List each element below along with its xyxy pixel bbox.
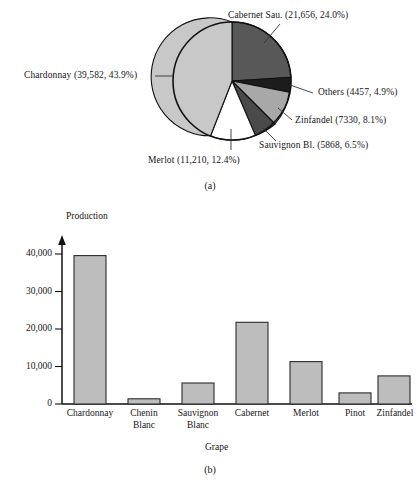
leader-line-others	[290, 85, 313, 93]
pie-label-chardonnay: Chardonnay (39,582, 43.9%)	[24, 70, 137, 81]
pie-label-others: Others (4457, 4.9%)	[318, 87, 397, 98]
x-category-sauvignon-blanc-line2: Blanc	[160, 420, 236, 432]
pie-label-sauvignon-bl: Sauvignon Bl. (5868, 6.5%)	[259, 140, 368, 151]
pie-label-cabernet-sau: Cabernet Sau. (21,656, 24.0%)	[228, 10, 348, 21]
y-tick-label-10000: 10,000	[0, 361, 52, 371]
figure-wine-production: Cabernet Sau. (21,656, 24.0%) Chardonnay…	[0, 0, 420, 487]
y-axis-title: Production	[66, 211, 108, 221]
x-category-zinfandel-line1: Zinfandel	[364, 408, 420, 420]
y-tick-label-20000: 20,000	[0, 323, 52, 333]
panel-a-caption: (a)	[0, 180, 420, 191]
x-axis-title: Grape	[205, 442, 228, 452]
bar-chart-svg	[0, 230, 420, 420]
x-category-zinfandel: Zinfandel	[364, 408, 420, 420]
panel-b-caption: (b)	[0, 464, 420, 475]
x-category-cabernet: Cabernet	[220, 408, 284, 420]
pie-slice-cabernet-sau[interactable]	[232, 22, 291, 81]
y-axis-arrow	[58, 235, 66, 245]
pie-label-zinfandel: Zinfandel (7330, 8.1%)	[295, 115, 386, 126]
x-category-cabernet-line1: Cabernet	[220, 408, 284, 420]
bar-chardonnay[interactable]	[74, 256, 106, 404]
y-tick-label-0: 0	[0, 398, 52, 408]
bar-sauvignon-blanc[interactable]	[182, 383, 214, 404]
y-tick-label-40000: 40,000	[0, 248, 52, 258]
bar-pinot[interactable]	[339, 393, 371, 404]
pie-label-merlot: Merlot (11,210, 12.4%)	[148, 155, 240, 166]
bar-chenin-blanc[interactable]	[128, 399, 160, 404]
bar-zinfandel[interactable]	[378, 376, 410, 404]
bar-merlot[interactable]	[290, 362, 322, 404]
y-tick-label-30000: 30,000	[0, 286, 52, 296]
bar-cabernet[interactable]	[236, 322, 268, 404]
